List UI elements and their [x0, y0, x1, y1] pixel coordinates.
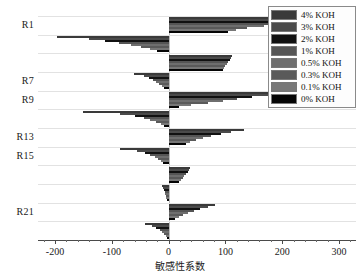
y-axis-tick-label: R1	[22, 20, 34, 30]
legend-label: 0.1% KOH	[301, 83, 342, 92]
x-tick-minor	[100, 240, 101, 242]
legend-swatch	[271, 10, 297, 20]
gridline	[38, 165, 356, 166]
legend-label: 0% KOH	[301, 95, 335, 104]
bar	[169, 143, 186, 145]
x-tick-minor	[191, 240, 192, 242]
x-axis-tick-label: -100	[103, 246, 121, 257]
bar	[157, 50, 168, 52]
x-tick-minor	[135, 240, 136, 242]
legend-swatch	[271, 22, 297, 32]
x-tick-minor	[305, 240, 306, 242]
legend-item[interactable]: 4% KOH	[271, 9, 353, 21]
legend-item[interactable]: 1% KOH	[271, 45, 353, 57]
bar	[163, 162, 168, 164]
sensitivity-bar-chart: R1R7R9R13R15R21 -200-1000100200300 敏感性系数…	[0, 0, 360, 275]
bar	[169, 106, 179, 108]
x-tick-minor	[78, 240, 79, 242]
x-tick-major	[169, 240, 170, 244]
y-axis-tick-label: R15	[16, 151, 34, 161]
x-tick-minor	[214, 240, 215, 242]
bar	[167, 237, 169, 239]
x-tick-minor	[350, 240, 351, 242]
x-tick-major	[282, 240, 283, 244]
legend-item[interactable]: 0.5% KOH	[271, 57, 353, 69]
bar	[167, 199, 169, 201]
x-tick-minor	[157, 240, 158, 242]
x-axis-tick-label: -200	[46, 246, 64, 257]
gridline	[38, 184, 356, 185]
bar	[169, 181, 180, 183]
legend-swatch	[271, 70, 297, 80]
x-tick-minor	[180, 240, 181, 242]
bar	[169, 31, 228, 33]
legend-swatch	[271, 46, 297, 56]
chart-legend: 4% KOH3% KOH2% KOH1% KOH0.5% KOH0.3% KOH…	[268, 6, 356, 108]
bar	[169, 69, 224, 71]
x-tick-major	[112, 240, 113, 244]
gridline	[38, 221, 356, 222]
x-axis-title: 敏感性系数	[0, 258, 360, 273]
legend-swatch	[271, 34, 297, 44]
x-tick-minor	[203, 240, 204, 242]
x-axis-tick-label: 200	[275, 246, 290, 257]
x-tick-minor	[237, 240, 238, 242]
y-axis-tick-label: R9	[22, 95, 34, 105]
legend-item[interactable]: 2% KOH	[271, 33, 353, 45]
x-tick-minor	[123, 240, 124, 242]
legend-item[interactable]: 0.3% KOH	[271, 69, 353, 81]
x-tick-major	[55, 240, 56, 244]
x-tick-minor	[44, 240, 45, 242]
legend-item[interactable]: 0% KOH	[271, 93, 353, 105]
x-tick-major	[225, 240, 226, 244]
legend-label: 3% KOH	[301, 23, 335, 32]
legend-item[interactable]: 0.1% KOH	[271, 81, 353, 93]
x-tick-minor	[328, 240, 329, 242]
legend-label: 0.3% KOH	[301, 71, 342, 80]
legend-item[interactable]: 3% KOH	[271, 21, 353, 33]
x-tick-minor	[89, 240, 90, 242]
y-axis-tick-label: R13	[16, 132, 34, 142]
legend-label: 1% KOH	[301, 47, 335, 56]
x-axis-tick-label: 100	[218, 246, 233, 257]
legend-swatch	[271, 58, 297, 68]
x-axis-tick-label: 300	[331, 246, 346, 257]
legend-swatch	[271, 94, 297, 104]
x-tick-minor	[294, 240, 295, 242]
bar	[164, 125, 169, 127]
x-tick-minor	[271, 240, 272, 242]
bar	[169, 218, 176, 220]
x-tick-minor	[66, 240, 67, 242]
legend-label: 2% KOH	[301, 35, 335, 44]
x-axis-tick-label: 0	[166, 246, 171, 257]
y-axis-tick-label: R7	[22, 76, 34, 86]
bar	[164, 87, 169, 89]
x-tick-major	[339, 240, 340, 244]
gridline	[38, 147, 356, 148]
legend-label: 0.5% KOH	[301, 59, 342, 68]
legend-swatch	[271, 82, 297, 92]
legend-label: 4% KOH	[301, 11, 335, 20]
x-axis-line	[38, 240, 356, 241]
x-tick-minor	[316, 240, 317, 242]
y-axis-tick-label: R21	[16, 207, 34, 217]
x-tick-minor	[248, 240, 249, 242]
x-tick-minor	[259, 240, 260, 242]
x-tick-minor	[146, 240, 147, 242]
y-axis-labels: R1R7R9R13R15R21	[0, 0, 34, 240]
